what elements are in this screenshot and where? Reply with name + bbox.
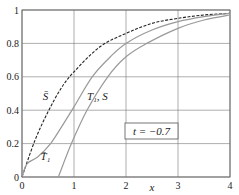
x-tick-label: 1 — [72, 180, 77, 191]
curve-labels: S̄T̄₁T₁, S — [40, 90, 108, 162]
x-tick-label: 2 — [124, 180, 129, 191]
y-tick-label: 1 — [14, 5, 19, 16]
curve-label: S̄ — [43, 90, 49, 102]
x-tick-label: 4 — [228, 180, 233, 191]
y-tick-label: 0.4 — [7, 105, 20, 116]
chart: 0123400.20.40.60.81 S̄T̄₁T₁, S t = −0.7 … — [0, 0, 239, 195]
tick-labels: 0123400.20.40.60.81 — [7, 5, 233, 192]
y-tick-label: 0.6 — [7, 71, 20, 82]
x-tick-label: 0 — [20, 180, 25, 191]
curve-label: T̄₁ — [40, 150, 50, 162]
curve-label: T₁, S — [87, 90, 108, 102]
annotation-text: t = −0.7 — [133, 125, 171, 137]
annotation-box: t = −0.7 — [125, 123, 178, 139]
grid — [22, 10, 230, 177]
y-tick-label: 0.8 — [7, 38, 20, 49]
y-tick-label: 0.2 — [7, 138, 20, 149]
y-tick-label: 0 — [14, 172, 19, 183]
x-tick-label: 3 — [176, 180, 181, 191]
x-axis-label: x — [149, 181, 155, 193]
series-line — [58, 15, 230, 177]
